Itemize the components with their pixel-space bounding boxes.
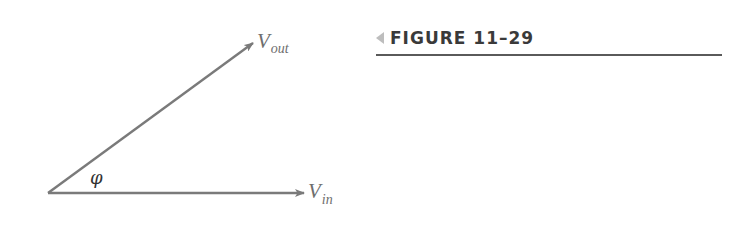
figure-label: FIGURE 11–29: [390, 28, 534, 48]
phase-angle-label: φ: [90, 167, 103, 188]
vin-label: Vin: [308, 179, 333, 207]
vout-label-sub: out: [271, 41, 290, 56]
vin-label-main: V: [308, 179, 323, 203]
figure-caption: FIGURE 11–29: [376, 26, 722, 50]
caption-triangle-icon: [376, 32, 384, 44]
vout-label-main: V: [257, 29, 272, 53]
caption-divider: [376, 54, 722, 56]
vout-vector: [48, 43, 253, 193]
vout-label: Vout: [257, 29, 290, 56]
vin-label-sub: in: [322, 192, 333, 207]
